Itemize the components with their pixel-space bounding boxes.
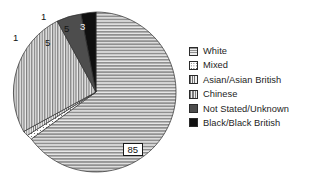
legend-label-white: White <box>203 46 227 56</box>
pie-slices <box>13 12 176 172</box>
data-label-mixed: 1 <box>13 33 18 43</box>
fine-vertical-lines-swatch-icon <box>189 75 198 84</box>
legend-item-not-stated[interactable]: Not Stated/Unknown <box>189 102 311 116</box>
legend-item-black[interactable]: Black/Black British <box>189 116 311 130</box>
data-label-asian: 1 <box>41 12 46 22</box>
legend-item-chinese[interactable]: Chinese <box>189 87 311 101</box>
legend-item-asian[interactable]: Asian/Asian British <box>189 73 311 87</box>
data-label-not-stated: 5 <box>64 24 69 34</box>
data-label-chinese: 5 <box>45 38 50 48</box>
data-label-black: 3 <box>80 22 85 32</box>
pie-chart: 85 1 1 5 5 3 White Mixed Asian/Asian Bri… <box>0 0 313 181</box>
legend-item-mixed[interactable]: Mixed <box>189 58 311 72</box>
legend-item-white[interactable]: White <box>189 44 311 58</box>
legend-label-not-stated: Not Stated/Unknown <box>203 104 289 114</box>
legend-label-asian: Asian/Asian British <box>203 75 281 85</box>
legend-label-mixed: Mixed <box>203 60 228 70</box>
data-label-white: 85 <box>123 143 143 156</box>
solid-black-swatch-icon <box>189 118 198 127</box>
legend-label-chinese: Chinese <box>203 89 237 99</box>
chart-legend: White Mixed Asian/Asian British Chinese <box>189 44 311 130</box>
legend-label-black: Black/Black British <box>203 118 280 128</box>
horizontal-lines-swatch-icon <box>189 47 198 56</box>
dots-swatch-icon <box>189 61 198 70</box>
solid-dark-gray-swatch-icon <box>189 104 198 113</box>
vertical-hatch-swatch-icon <box>189 90 198 99</box>
